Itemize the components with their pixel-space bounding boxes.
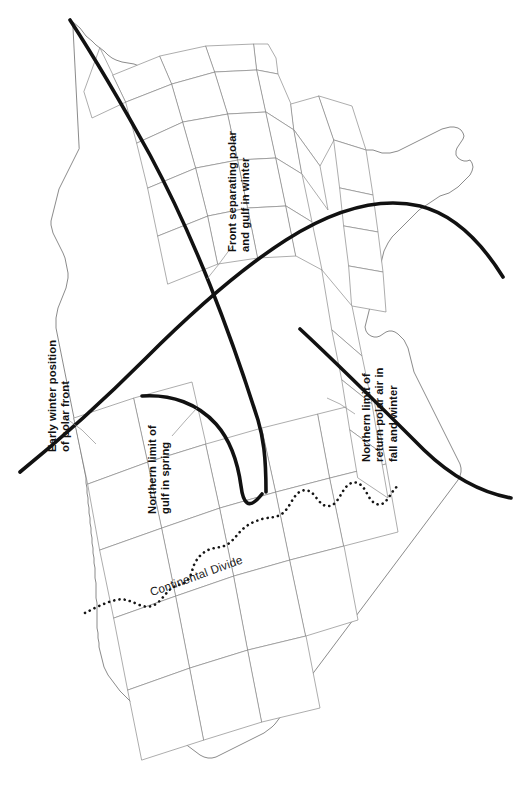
label-northern-limit-of-gulf-in-spring: Northern limit of gulf in spring bbox=[146, 425, 173, 514]
label-northern-limit-of-return-polar-air: Northern limit of return polar air in fa… bbox=[360, 367, 400, 462]
label-front-separating-polar-and-gulf-in-winter: Front separating polar and gulf in winte… bbox=[226, 131, 253, 252]
label-early-winter-position-of-polar-front: Early winter position of polar front bbox=[46, 340, 73, 452]
map-canvas: Front separating polar and gulf in winte… bbox=[0, 0, 516, 788]
us-outline-map bbox=[0, 0, 516, 788]
